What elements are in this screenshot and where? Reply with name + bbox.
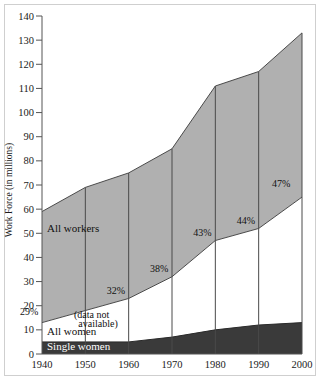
x-tick-label-1940: 1940 — [32, 359, 53, 370]
annotation-32: 32% — [107, 285, 125, 296]
y-tick-label-50: 50 — [24, 228, 35, 239]
y-axis-title: Work Force (in millions) — [4, 143, 15, 238]
y-tick-label-90: 90 — [24, 131, 35, 142]
chart-page: 0102030405060708090100110120130140 19401… — [0, 0, 321, 381]
y-tick-label-30: 30 — [24, 276, 35, 287]
y-tick-label-140: 140 — [18, 11, 34, 22]
x-axis-tick-labels: 1940195019601970198019902000 — [32, 359, 313, 370]
x-tick-label-1980: 1980 — [205, 359, 226, 370]
y-axis-ticks — [36, 16, 42, 354]
annotation-47: 47% — [272, 178, 290, 189]
y-tick-label-130: 130 — [18, 35, 34, 46]
y-tick-label-0: 0 — [29, 349, 34, 360]
series-label-single-women: Single women — [47, 340, 111, 352]
y-tick-label-40: 40 — [24, 252, 35, 263]
annotation-44: 44% — [237, 215, 255, 226]
annotation-available: available) — [78, 318, 117, 330]
y-tick-label-80: 80 — [24, 155, 35, 166]
y-tick-label-70: 70 — [24, 180, 35, 191]
series-label-all-workers: All workers — [47, 222, 99, 234]
annotation-29: 29% — [20, 306, 38, 317]
x-tick-label-1970: 1970 — [162, 359, 183, 370]
x-tick-label-1960: 1960 — [118, 359, 139, 370]
annotation-43: 43% — [193, 227, 211, 238]
x-tick-label-2000: 2000 — [292, 359, 313, 370]
annotation-38: 38% — [150, 263, 168, 274]
y-tick-label-120: 120 — [18, 59, 34, 70]
y-tick-label-110: 110 — [19, 83, 34, 94]
x-tick-label-1990: 1990 — [248, 359, 269, 370]
x-tick-label-1950: 1950 — [75, 359, 96, 370]
y-tick-label-60: 60 — [24, 204, 35, 215]
y-tick-label-100: 100 — [18, 107, 34, 118]
work-force-area-chart: 0102030405060708090100110120130140 19401… — [0, 0, 321, 381]
y-tick-label-10: 10 — [24, 324, 35, 335]
